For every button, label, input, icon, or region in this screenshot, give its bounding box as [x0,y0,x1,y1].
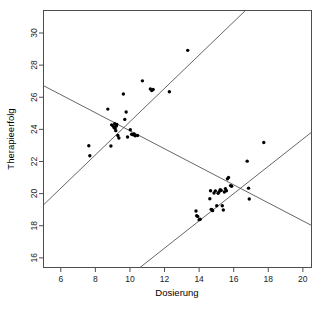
data-point [122,92,125,95]
data-point [225,189,228,192]
data-point [136,134,139,137]
data-point [245,159,248,162]
data-point [214,189,217,192]
data-point [109,144,112,147]
data-point [222,208,225,211]
data-point [126,135,129,138]
x-tick-label: 18 [264,274,274,284]
x-axis-ticks: 68101214161820 [58,268,307,284]
data-point [198,218,201,221]
x-tick-label: 20 [298,274,308,284]
data-point [262,141,265,144]
data-point [123,118,126,121]
y-tick-label: 28 [30,60,40,70]
y-tick-label: 22 [30,156,40,166]
data-point [115,123,118,126]
data-point [124,110,127,113]
data-point [186,49,189,52]
y-tick-label: 18 [30,221,40,231]
data-point [209,189,212,192]
data-point [230,185,233,188]
y-axis-ticks: 1618202224262830 [30,28,44,263]
data-point [141,79,144,82]
regression-line [140,132,312,267]
scatter-plot-figure: 68101214161820 1618202224262830 Dosierun… [0,0,325,315]
x-tick-label: 10 [125,274,135,284]
data-point [208,197,211,200]
regression-line [44,86,312,226]
data-point [247,186,250,189]
x-tick-label: 6 [58,274,63,284]
x-tick-label: 12 [160,274,170,284]
y-tick-label: 20 [30,189,40,199]
y-axis-title: Therapieerfolg [5,108,16,169]
data-point [248,197,251,200]
data-point [129,128,132,131]
plot-canvas: 68101214161820 1618202224262830 Dosierun… [0,0,325,315]
data-point [227,176,230,179]
data-point [114,129,117,132]
y-tick-label: 16 [30,253,40,263]
data-points [87,49,265,222]
x-tick-label: 14 [194,274,204,284]
data-point [194,209,197,212]
x-tick-label: 16 [229,274,239,284]
plot-frame [44,11,312,268]
data-point [88,154,91,157]
data-point [221,204,224,207]
data-point [106,107,109,110]
data-point [196,215,199,218]
data-point [220,189,223,192]
data-point [211,209,214,212]
y-tick-label: 24 [30,124,40,134]
x-tick-label: 8 [93,274,98,284]
regression-line [44,11,246,205]
x-axis-title: Dosierung [155,287,198,298]
data-point [87,144,90,147]
data-point [151,88,154,91]
data-point [168,90,171,93]
data-point [215,204,218,207]
y-tick-label: 30 [30,28,40,38]
data-point [117,136,120,139]
y-tick-label: 26 [30,92,40,102]
regression-lines [44,11,312,268]
